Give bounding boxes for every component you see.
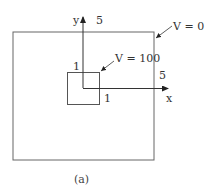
x-extent-label: 5 [159, 69, 166, 82]
figure-caption: (a) [74, 173, 89, 186]
outer-boundary-leader-arrow [156, 26, 172, 38]
y-extent-label: 5 [96, 14, 103, 27]
x-axis-label: x [166, 92, 173, 105]
y-axis-label: y [72, 14, 80, 27]
inner-boundary-label: V = 100 [114, 52, 160, 65]
outer-boundary-label: V = 0 [172, 20, 204, 33]
diagram-canvas: y 5 V = 0 V = 100 1 5 1 x (a) [0, 0, 210, 188]
inner-side-label-right: 1 [104, 92, 111, 105]
inner-side-label-top: 1 [73, 60, 80, 73]
inner-boundary-leader-arrow [101, 61, 114, 71]
